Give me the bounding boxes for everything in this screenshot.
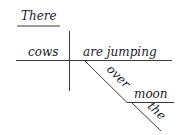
preposition-word: over	[104, 62, 134, 92]
subject-word: cows	[28, 45, 58, 59]
sentence-diagram: There cows are jumping over moon the	[0, 0, 188, 135]
expletive-word: There	[21, 9, 57, 23]
verb-word: are jumping	[83, 45, 157, 59]
object-word: moon	[134, 87, 168, 101]
